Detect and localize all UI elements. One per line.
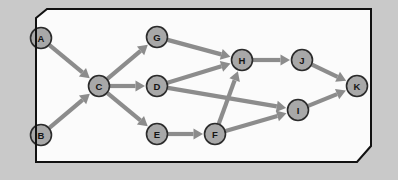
node-circle[interactable] [347, 76, 368, 97]
node-b[interactable]: B [31, 125, 52, 146]
node-circle[interactable] [288, 100, 309, 121]
node-j[interactable]: J [292, 50, 313, 71]
node-circle[interactable] [232, 50, 253, 71]
node-f[interactable]: F [205, 124, 226, 145]
node-e[interactable]: E [147, 124, 168, 145]
node-c[interactable]: C [89, 76, 110, 97]
node-circle[interactable] [31, 28, 52, 49]
node-d[interactable]: D [147, 76, 168, 97]
node-a[interactable]: A [31, 28, 52, 49]
node-h[interactable]: H [232, 50, 253, 71]
panel-background [36, 9, 371, 162]
node-g[interactable]: G [147, 27, 168, 48]
node-circle[interactable] [292, 50, 313, 71]
node-k[interactable]: K [347, 76, 368, 97]
graph-svg: ABCGDEFHJIK [0, 0, 398, 180]
diagram-canvas: ABCGDEFHJIK [0, 0, 398, 180]
node-circle[interactable] [31, 125, 52, 146]
node-circle[interactable] [147, 27, 168, 48]
node-circle[interactable] [205, 124, 226, 145]
node-circle[interactable] [89, 76, 110, 97]
node-circle[interactable] [147, 124, 168, 145]
node-i[interactable]: I [288, 100, 309, 121]
node-circle[interactable] [147, 76, 168, 97]
